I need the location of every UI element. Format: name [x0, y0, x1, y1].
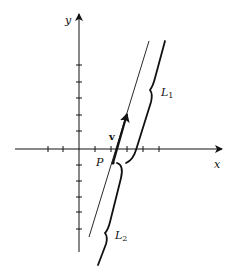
- line-l1-label: L1: [160, 86, 173, 100]
- point-p-label: P: [95, 156, 104, 169]
- x-axis-label: x: [214, 158, 221, 171]
- line-l2-label: L2: [114, 229, 127, 243]
- vector-v: [113, 114, 127, 163]
- diagram-canvas: y x P v L1 L2: [0, 0, 233, 274]
- thick-line-L1: [126, 41, 165, 163]
- point-p-dot: [111, 161, 114, 164]
- y-axis: [76, 14, 82, 252]
- vector-v-label: v: [108, 131, 116, 142]
- y-axis-label: y: [64, 14, 72, 27]
- thick-line-L2: [98, 163, 122, 265]
